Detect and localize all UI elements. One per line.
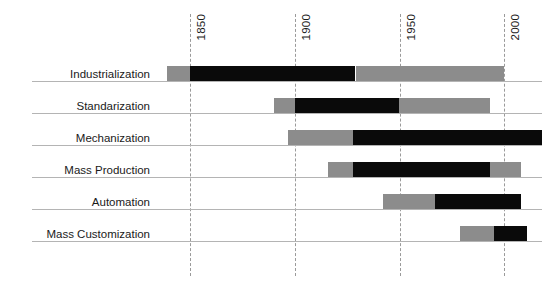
- row-baseline: [32, 241, 542, 242]
- timeline-bar: [383, 194, 521, 209]
- timeline-chart: 1850190019502000IndustrializationStandar…: [0, 0, 542, 294]
- bar-segment-peak: [494, 226, 528, 241]
- row-label: Standarization: [76, 100, 150, 112]
- bar-segment-rampup: [288, 130, 353, 145]
- row-label: Automation: [92, 196, 150, 208]
- timeline-row: Mass Production: [0, 146, 542, 178]
- plot-area: 1850190019502000IndustrializationStandar…: [0, 0, 542, 294]
- timeline-bar: [460, 226, 527, 241]
- bar-segment-peak: [435, 194, 521, 209]
- timeline-bar: [328, 162, 521, 177]
- bar-segment-peak: [190, 66, 356, 81]
- bar-segment-rampup: [328, 162, 353, 177]
- bar-segment-rampup: [274, 98, 295, 113]
- timeline-row: Standarization: [0, 82, 542, 114]
- row-label: Mass Production: [64, 164, 150, 176]
- bar-segment-rampup: [460, 226, 494, 241]
- bar-segment-rampup: [167, 66, 190, 81]
- row-label: Mass Customization: [46, 228, 150, 240]
- timeline-bar: [288, 130, 541, 145]
- bar-segment-peak: [353, 162, 489, 177]
- row-label: Mechanization: [76, 132, 150, 144]
- bar-segment-peak: [353, 130, 542, 145]
- timeline-row: Mechanization: [0, 114, 542, 146]
- bar-segment-decline: [399, 98, 489, 113]
- timeline-row: Mass Customization: [0, 210, 542, 242]
- bar-segment-rampup: [383, 194, 435, 209]
- bar-segment-decline: [490, 162, 521, 177]
- bar-segment-decline: [356, 66, 505, 81]
- x-axis-tick-label: 1900: [300, 14, 312, 40]
- x-axis-tick-label: 1850: [195, 14, 207, 40]
- x-axis-tick-label: 1950: [405, 14, 417, 40]
- timeline-row: Automation: [0, 178, 542, 210]
- bar-segment-peak: [295, 98, 400, 113]
- timeline-row: Industrialization: [0, 50, 542, 82]
- x-axis-tick-label: 2000: [509, 14, 521, 40]
- row-label: Industrialization: [70, 68, 150, 80]
- timeline-bar: [274, 98, 490, 113]
- timeline-bar: [167, 66, 504, 81]
